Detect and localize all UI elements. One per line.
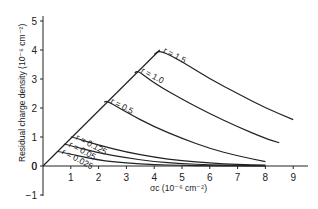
curve-labels: r = 1.5r = 1.0r = 0.5r = 0.125r = 0.05r … [60, 45, 188, 171]
y-tick-label: −1 [26, 190, 38, 201]
y-tick-label: 4 [31, 45, 37, 56]
x-axis-label: σc (10⁻⁶ cm⁻²) [150, 183, 207, 193]
y-tick-label: 3 [31, 74, 37, 85]
y-tick-label: 2 [31, 103, 37, 114]
curve-label: r = 0.5 [109, 96, 135, 116]
x-tick-label: 7 [235, 172, 241, 183]
x-tick-label: 8 [263, 172, 269, 183]
x-tick-label: 4 [151, 172, 157, 183]
x-ticks: 123456789 [68, 166, 296, 183]
y-axis-label: Residual charge density (10⁻⁶ cm⁻²) [17, 24, 27, 162]
y-ticks: −10123450 [26, 16, 43, 201]
x-tick-label: 2 [96, 172, 102, 183]
axes [43, 16, 308, 196]
x-tick-label: 3 [124, 172, 130, 183]
x-tick-label: 5 [179, 172, 185, 183]
curve-label: r = 1.5 [162, 45, 188, 65]
x-tick-label: 6 [207, 172, 213, 183]
chart: −10123450 123456789 r = 1.5r = 1.0r = 0.… [0, 0, 318, 209]
x-tick-label: 1 [68, 172, 74, 183]
y-tick-label: 1 [31, 132, 37, 143]
y-tick-label: 5 [31, 16, 37, 27]
x-tick-label: 9 [290, 172, 296, 183]
y-tick-label: 0 [31, 161, 37, 172]
curve-r-1-5 [154, 52, 293, 120]
